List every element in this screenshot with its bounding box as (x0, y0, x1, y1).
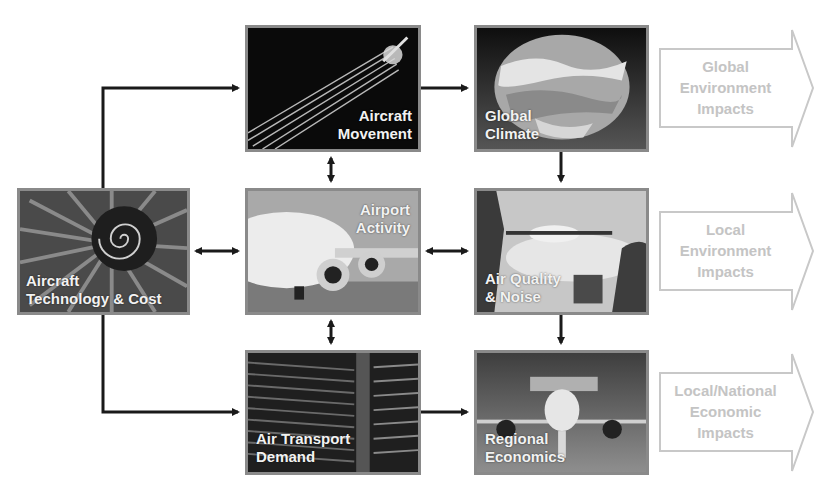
node-label: Airport Activity (356, 201, 410, 237)
node-air-quality-noise: Air Quality & Noise (474, 188, 649, 315)
arrow-tech-to-movement (103, 88, 238, 188)
node-label: Air Quality & Noise (485, 270, 561, 306)
impact-arrow-economic: Local/National Economic Impacts (659, 353, 819, 473)
node-label: Regional Economics (485, 430, 565, 466)
node-label: Aircraft Technology & Cost (26, 272, 162, 308)
impact-label: Local/National Economic Impacts (659, 380, 792, 443)
impact-arrow-global-environment: Global Environment Impacts (659, 29, 819, 149)
node-air-transport-demand: Air Transport Demand (245, 350, 421, 475)
node-label: Air Transport Demand (256, 430, 350, 466)
node-aircraft-technology-cost: Aircraft Technology & Cost (17, 188, 190, 315)
impact-label: Local Environment Impacts (659, 219, 792, 282)
node-airport-activity: Airport Activity (245, 188, 421, 315)
node-regional-economics: Regional Economics (474, 350, 649, 475)
node-label: Aircraft Movement (338, 107, 412, 143)
node-global-climate: Global Climate (474, 25, 649, 152)
impact-label: Global Environment Impacts (659, 56, 792, 119)
impact-arrow-local-environment: Local Environment Impacts (659, 192, 819, 312)
arrow-tech-to-demand (103, 314, 238, 412)
node-aircraft-movement: Aircraft Movement (245, 25, 421, 152)
node-label: Global Climate (485, 107, 539, 143)
